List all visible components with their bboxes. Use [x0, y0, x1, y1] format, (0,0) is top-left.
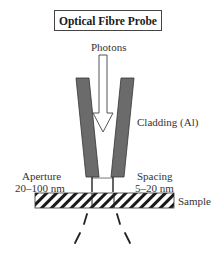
- probe-diagram: [0, 0, 224, 257]
- cladding-left: [76, 78, 99, 177]
- cladding-right: [111, 78, 134, 177]
- sample-bar: [35, 193, 174, 208]
- emission-lines: [75, 214, 130, 243]
- photon-arrow-icon: [93, 55, 113, 132]
